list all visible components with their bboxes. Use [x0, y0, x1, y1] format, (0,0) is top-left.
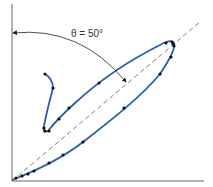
hysteresis-curve — [12, 41, 174, 180]
data-point — [81, 140, 84, 143]
data-point — [122, 106, 125, 109]
data-point — [57, 117, 60, 120]
data-point — [47, 129, 50, 132]
data-point — [42, 126, 45, 129]
hysteresis-chart — [0, 0, 213, 187]
data-point — [171, 42, 174, 45]
data-point — [67, 106, 70, 109]
data-point — [158, 72, 161, 75]
data-point — [14, 176, 17, 179]
data-point — [164, 41, 167, 44]
data-point — [43, 72, 46, 75]
data-point — [47, 161, 50, 164]
data-point — [61, 153, 64, 156]
data-point — [43, 129, 46, 132]
data-point — [169, 55, 172, 58]
data-point — [20, 174, 23, 177]
angle-label: θ = 50° — [71, 28, 103, 39]
data-point — [51, 86, 54, 89]
data-point — [32, 169, 35, 172]
data-point — [97, 81, 100, 84]
data-point — [26, 172, 29, 175]
